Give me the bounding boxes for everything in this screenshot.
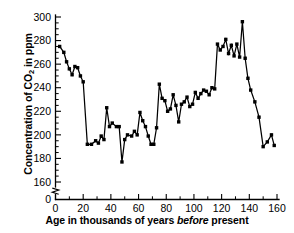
data-point — [152, 143, 155, 146]
data-point — [105, 106, 108, 109]
y-tick-label-160: 160 — [33, 176, 51, 188]
y-axis-title-subscript: 2 — [27, 70, 36, 74]
data-point — [232, 54, 235, 57]
data-point — [117, 125, 120, 128]
data-point — [221, 45, 224, 48]
data-point — [133, 130, 136, 133]
data-point — [169, 107, 172, 110]
x-tick-label-100: 100 — [185, 202, 203, 214]
x-tick-label-120: 120 — [213, 202, 231, 214]
chart-axes — [52, 15, 279, 200]
data-point — [235, 42, 238, 45]
data-point — [62, 51, 65, 54]
data-point — [86, 143, 89, 146]
x-tick-label-60: 60 — [133, 202, 145, 214]
data-point — [123, 138, 126, 141]
data-point — [191, 103, 194, 106]
data-point — [266, 140, 269, 143]
data-point — [270, 133, 273, 136]
y-tick-label-zero: 0 — [45, 193, 51, 205]
data-point — [257, 115, 260, 118]
data-point — [158, 82, 161, 85]
data-point — [194, 91, 197, 94]
data-point — [58, 45, 61, 48]
data-point — [249, 88, 252, 91]
data-point — [243, 57, 246, 60]
chart-plot-area: 1601802002202402602803000020406080100120… — [0, 0, 294, 233]
data-point — [130, 134, 133, 137]
y-tick-label-200: 200 — [33, 129, 51, 141]
data-point — [246, 77, 249, 80]
data-point — [141, 119, 144, 122]
data-point — [171, 93, 174, 96]
x-tick-label-140: 140 — [241, 202, 259, 214]
y-tick-label-260: 260 — [33, 58, 51, 70]
data-point — [65, 60, 68, 63]
data-point — [230, 44, 233, 47]
data-point — [102, 138, 105, 141]
x-tick-label-0: 0 — [53, 202, 59, 214]
data-point — [253, 100, 256, 103]
data-point — [144, 125, 147, 128]
y-axis-break-icon — [52, 188, 58, 194]
data-point — [216, 42, 219, 45]
data-point — [81, 80, 84, 83]
data-point — [155, 126, 158, 129]
y-tick-label-220: 220 — [33, 105, 51, 117]
x-axis-title-pre: Age in thousands of years — [45, 214, 177, 226]
data-point — [196, 97, 199, 100]
data-point — [70, 73, 73, 76]
data-point — [76, 66, 79, 69]
x-tick-label-80: 80 — [160, 202, 172, 214]
data-point — [99, 134, 102, 137]
data-point — [224, 38, 227, 41]
data-point — [213, 87, 216, 90]
data-point — [177, 120, 180, 123]
chart-data-series — [58, 20, 276, 164]
x-tick-label-40: 40 — [105, 202, 117, 214]
data-point — [135, 133, 138, 136]
data-point — [241, 20, 244, 23]
data-point — [261, 145, 264, 148]
data-point — [227, 52, 230, 55]
data-point — [138, 111, 141, 114]
data-point — [205, 90, 208, 93]
y-axis-title-pre: Concentration of CO — [22, 74, 34, 175]
y-tick-label-240: 240 — [33, 81, 51, 93]
x-tick-label-20: 20 — [77, 202, 89, 214]
data-point — [273, 144, 276, 147]
data-point — [97, 141, 100, 144]
data-line-0 — [60, 22, 275, 162]
y-tick-label-280: 280 — [33, 34, 51, 46]
co2-concentration-chart: 1601802002202402602803000020406080100120… — [0, 0, 294, 233]
data-point — [68, 67, 71, 70]
y-tick-label-300: 300 — [33, 11, 51, 23]
data-point — [90, 143, 93, 146]
data-point — [174, 104, 177, 107]
chart-tick-labels: 1601802002202402602803000020406080100120… — [33, 11, 285, 214]
data-point — [238, 55, 241, 58]
x-axis-title-italic: before — [177, 214, 209, 226]
data-point — [163, 99, 166, 102]
data-point — [126, 133, 129, 136]
y-axis-title-post: in ppm — [22, 33, 34, 70]
x-tick-label-160: 160 — [268, 202, 286, 214]
data-point — [120, 160, 123, 163]
data-point — [183, 100, 186, 103]
data-point — [111, 121, 114, 124]
data-point — [147, 134, 150, 137]
data-point — [219, 48, 222, 51]
x-axis-title: Age in thousands of years before present — [0, 214, 294, 226]
data-point — [185, 95, 188, 98]
data-point — [108, 125, 111, 128]
y-tick-label-180: 180 — [33, 152, 51, 164]
data-point — [79, 74, 82, 77]
data-point — [199, 92, 202, 95]
data-point — [207, 93, 210, 96]
y-axis-title: Concentration of CO2 in ppm — [22, 19, 36, 189]
x-axis-title-post: present — [209, 214, 249, 226]
